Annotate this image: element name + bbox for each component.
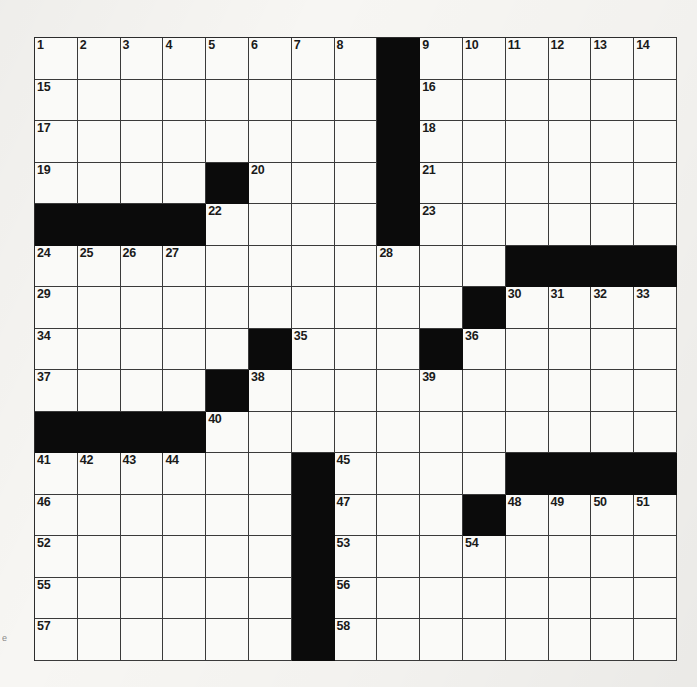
grid-cell[interactable]: 28 (377, 246, 420, 288)
grid-cell[interactable]: 39 (420, 370, 463, 412)
grid-cell[interactable]: 16 (420, 80, 463, 122)
grid-cell[interactable] (549, 163, 592, 205)
grid-cell[interactable]: 36 (463, 329, 506, 371)
grid-cell[interactable] (121, 578, 164, 620)
grid-cell[interactable] (506, 121, 549, 163)
grid-cell[interactable] (549, 370, 592, 412)
grid-cell[interactable] (377, 412, 420, 454)
grid-cell[interactable] (549, 619, 592, 661)
grid-cell[interactable] (463, 121, 506, 163)
grid-cell[interactable] (249, 246, 292, 288)
grid-cell[interactable] (634, 412, 677, 454)
grid-cell[interactable] (549, 329, 592, 371)
grid-cell[interactable] (78, 329, 121, 371)
grid-cell[interactable] (292, 80, 335, 122)
grid-cell[interactable] (121, 536, 164, 578)
grid-cell[interactable]: 42 (78, 453, 121, 495)
grid-cell[interactable]: 29 (35, 287, 78, 329)
grid-cell[interactable] (335, 370, 378, 412)
grid-cell[interactable] (163, 80, 206, 122)
grid-cell[interactable]: 27 (163, 246, 206, 288)
grid-cell[interactable]: 14 (634, 38, 677, 80)
grid-cell[interactable] (591, 578, 634, 620)
grid-cell[interactable]: 46 (35, 495, 78, 537)
grid-cell[interactable]: 3 (121, 38, 164, 80)
grid-cell[interactable]: 22 (206, 204, 249, 246)
grid-cell[interactable] (163, 329, 206, 371)
grid-cell[interactable] (463, 163, 506, 205)
grid-cell[interactable] (121, 619, 164, 661)
grid-cell[interactable]: 50 (591, 495, 634, 537)
grid-cell[interactable] (335, 329, 378, 371)
grid-cell[interactable]: 48 (506, 495, 549, 537)
grid-cell[interactable] (121, 163, 164, 205)
grid-cell[interactable]: 35 (292, 329, 335, 371)
grid-cell[interactable] (292, 246, 335, 288)
grid-cell[interactable] (206, 80, 249, 122)
grid-cell[interactable] (506, 370, 549, 412)
grid-cell[interactable]: 45 (335, 453, 378, 495)
grid-cell[interactable]: 58 (335, 619, 378, 661)
grid-cell[interactable] (377, 287, 420, 329)
grid-cell[interactable]: 12 (549, 38, 592, 80)
grid-cell[interactable]: 57 (35, 619, 78, 661)
grid-cell[interactable] (420, 578, 463, 620)
grid-cell[interactable] (506, 536, 549, 578)
grid-cell[interactable] (335, 246, 378, 288)
grid-cell[interactable] (249, 536, 292, 578)
grid-cell[interactable] (634, 204, 677, 246)
grid-cell[interactable] (121, 495, 164, 537)
grid-cell[interactable] (634, 536, 677, 578)
grid-cell[interactable]: 41 (35, 453, 78, 495)
grid-cell[interactable] (249, 287, 292, 329)
grid-cell[interactable] (163, 619, 206, 661)
grid-cell[interactable] (463, 80, 506, 122)
grid-cell[interactable] (634, 80, 677, 122)
grid-cell[interactable] (121, 287, 164, 329)
grid-cell[interactable] (420, 453, 463, 495)
grid-cell[interactable] (249, 121, 292, 163)
grid-cell[interactable] (463, 412, 506, 454)
grid-cell[interactable] (506, 163, 549, 205)
grid-cell[interactable]: 53 (335, 536, 378, 578)
grid-cell[interactable] (335, 121, 378, 163)
grid-cell[interactable] (249, 453, 292, 495)
grid-cell[interactable] (163, 578, 206, 620)
grid-cell[interactable]: 1 (35, 38, 78, 80)
grid-cell[interactable] (249, 412, 292, 454)
grid-cell[interactable]: 52 (35, 536, 78, 578)
grid-cell[interactable] (420, 619, 463, 661)
grid-cell[interactable] (206, 287, 249, 329)
grid-cell[interactable] (591, 121, 634, 163)
grid-cell[interactable] (549, 80, 592, 122)
grid-cell[interactable] (206, 536, 249, 578)
grid-cell[interactable] (335, 163, 378, 205)
grid-cell[interactable] (292, 370, 335, 412)
grid-cell[interactable] (377, 453, 420, 495)
grid-cell[interactable] (292, 204, 335, 246)
grid-cell[interactable] (377, 495, 420, 537)
grid-cell[interactable] (292, 287, 335, 329)
grid-cell[interactable] (549, 204, 592, 246)
grid-cell[interactable]: 15 (35, 80, 78, 122)
grid-cell[interactable]: 20 (249, 163, 292, 205)
grid-cell[interactable] (420, 495, 463, 537)
grid-cell[interactable]: 43 (121, 453, 164, 495)
grid-cell[interactable] (591, 204, 634, 246)
grid-cell[interactable]: 34 (35, 329, 78, 371)
grid-cell[interactable] (420, 536, 463, 578)
grid-cell[interactable] (249, 204, 292, 246)
grid-cell[interactable] (335, 204, 378, 246)
grid-cell[interactable] (377, 578, 420, 620)
grid-cell[interactable] (377, 619, 420, 661)
grid-cell[interactable] (206, 246, 249, 288)
grid-cell[interactable]: 6 (249, 38, 292, 80)
grid-cell[interactable]: 51 (634, 495, 677, 537)
grid-cell[interactable]: 37 (35, 370, 78, 412)
grid-cell[interactable] (506, 80, 549, 122)
grid-cell[interactable] (506, 578, 549, 620)
grid-cell[interactable] (634, 370, 677, 412)
grid-cell[interactable] (591, 619, 634, 661)
grid-cell[interactable] (506, 329, 549, 371)
grid-cell[interactable] (591, 536, 634, 578)
